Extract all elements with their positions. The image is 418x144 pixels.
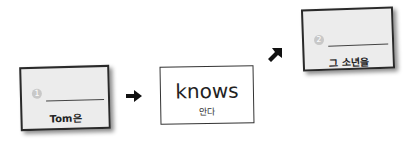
blank-card-2: 2 그 소년을	[301, 6, 395, 71]
arrow-up-right-icon	[268, 48, 282, 62]
word-korean: 안다	[161, 104, 253, 119]
card-label-1: Tom은	[22, 109, 108, 126]
blank-line-2	[328, 44, 388, 47]
word-english: knows	[161, 78, 253, 104]
blank-card-1: 1 Tom은	[19, 65, 111, 131]
number-badge-1: 1	[32, 89, 42, 99]
blank-line-1	[46, 99, 104, 102]
arrow-right-icon	[126, 90, 142, 102]
card-label-2: 그 소년을	[305, 52, 393, 70]
word-card: knows 안다	[160, 65, 255, 125]
number-badge-2: 2	[314, 35, 324, 45]
